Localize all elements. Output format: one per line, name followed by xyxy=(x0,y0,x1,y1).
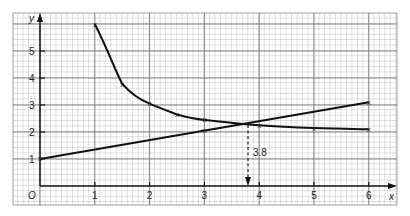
grid-paper xyxy=(13,13,397,205)
y-axis-label: y xyxy=(28,13,35,24)
x-tick-6: 6 xyxy=(366,190,372,201)
x-tick-3: 3 xyxy=(202,190,208,201)
cross-marker-icon: x xyxy=(312,124,316,133)
y-tick-5: 5 xyxy=(29,46,35,57)
y-tick-3: 3 xyxy=(29,100,35,111)
origin-label: O xyxy=(28,190,36,201)
cross-marker-icon: x xyxy=(120,80,124,89)
cross-marker-icon: x xyxy=(93,20,97,29)
cross-marker-icon: x xyxy=(367,98,371,107)
x-tick-2: 2 xyxy=(147,190,153,201)
graph: 1 2 3 4 5 6 1 2 3 4 5 O y x x x x x x x … xyxy=(0,0,410,216)
cross-marker-icon: x xyxy=(257,121,261,130)
y-tick-1: 1 xyxy=(29,154,35,165)
y-tick-2: 2 xyxy=(29,127,35,138)
cross-marker-icon: x xyxy=(38,154,42,163)
intersection-label: 3.8 xyxy=(253,147,267,158)
cross-marker-icon: x xyxy=(202,115,206,124)
cross-marker-icon: x xyxy=(175,110,179,119)
cross-marker-icon: x xyxy=(367,125,371,134)
x-tick-4: 4 xyxy=(256,190,262,201)
y-tick-4: 4 xyxy=(29,73,35,84)
x-axis-label: x xyxy=(388,191,395,202)
x-tick-5: 5 xyxy=(311,190,317,201)
cross-marker-icon: x xyxy=(202,126,206,135)
x-tick-1: 1 xyxy=(92,190,98,201)
cross-marker-icon: x xyxy=(148,99,152,108)
